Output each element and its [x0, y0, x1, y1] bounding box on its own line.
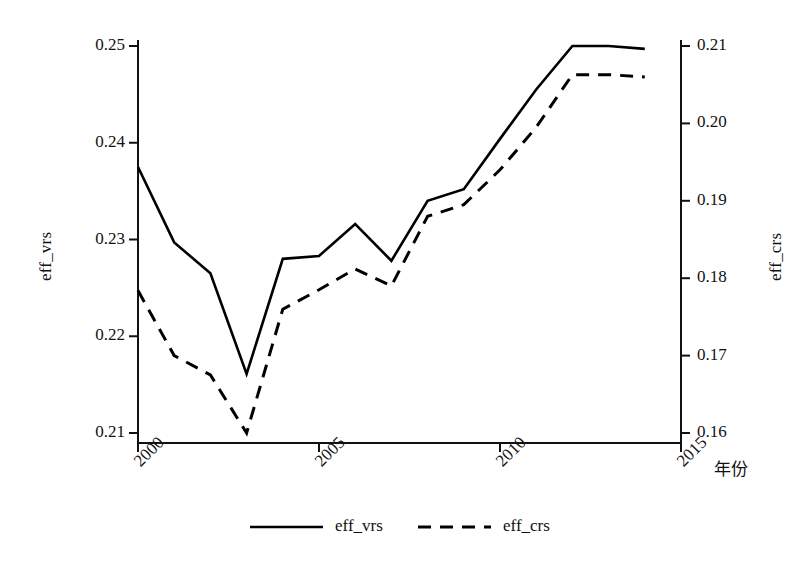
x-axis-ticks [138, 443, 681, 452]
right-tick-label: 0.18 [697, 267, 727, 287]
right-tick-label: 0.19 [697, 190, 727, 210]
right-tick-label: 0.21 [697, 35, 727, 55]
x-axis-title: 年份 [714, 455, 748, 480]
left-tick-label: 0.24 [55, 132, 125, 152]
legend-label-eff-vrs: eff_vrs [335, 516, 383, 536]
series-line-eff-crs [138, 75, 645, 433]
right-axis-ticks [681, 46, 690, 433]
left-tick-label: 0.23 [55, 229, 125, 249]
chart-figure: eff_vrs eff_crs 年份 0.210.220.230.240.25 … [0, 0, 803, 570]
y-axis-right-title: eff_crs [766, 233, 786, 281]
legend-label-eff-crs: eff_crs [503, 516, 550, 536]
y-axis-left-title: eff_vrs [36, 232, 56, 281]
plot-area [0, 0, 803, 570]
right-tick-label: 0.20 [697, 112, 727, 132]
right-tick-label: 0.17 [697, 345, 727, 365]
left-axis-ticks [129, 46, 138, 433]
left-tick-label: 0.25 [55, 35, 125, 55]
left-tick-label: 0.21 [55, 422, 125, 442]
series-line-eff-vrs [138, 46, 645, 374]
left-tick-label: 0.22 [55, 325, 125, 345]
